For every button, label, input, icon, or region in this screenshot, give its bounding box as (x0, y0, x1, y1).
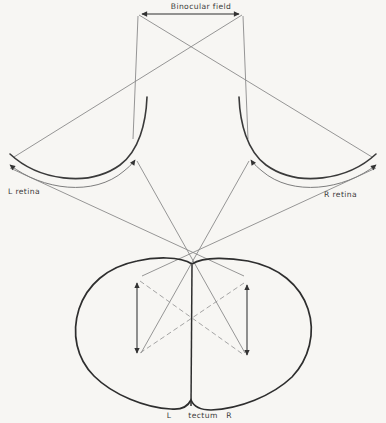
retinal-image-arrows (10, 160, 376, 187)
tectum-midline (191, 265, 192, 406)
tectum-label: tectum (188, 411, 217, 420)
right-retina-image-arrow (251, 160, 376, 187)
field-right-to-right-retina-ray (243, 16, 248, 139)
right-retina-arc (239, 97, 376, 179)
tectum-outline (75, 258, 311, 410)
optic-nerve-lines (10, 161, 376, 353)
field-left-to-left-retina-ray (133, 16, 138, 139)
right-retina-inner-to-left-tectum-line (141, 161, 249, 353)
binocular-field-label: Binocular field (171, 2, 231, 11)
left-retina-outer-to-right-tectum-line (10, 168, 244, 276)
right-retina-label: R retina (324, 190, 357, 199)
tectum-left-label: L (167, 411, 172, 420)
diagram-canvas: Binocular field L retina R retina L tect… (0, 0, 386, 423)
field-projection-rays (14, 15, 372, 157)
tectum-right-label: R (226, 411, 232, 420)
field-left-to-right-retina-ray (139, 15, 372, 157)
left-retina-label: L retina (8, 187, 40, 196)
left-retina-arc (10, 97, 147, 179)
right-retina-outer-to-left-tectum-line (142, 168, 376, 276)
left-retina-image-arrow (10, 160, 135, 187)
retina-arcs (10, 97, 376, 179)
field-right-to-left-retina-ray (14, 15, 242, 157)
